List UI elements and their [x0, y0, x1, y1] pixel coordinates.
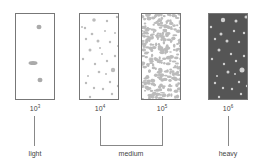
dense-particles-graphic	[142, 14, 181, 100]
label-10e3: 103	[30, 104, 40, 112]
panel-10e3	[15, 13, 55, 100]
connector-medium-left	[100, 116, 101, 146]
heavy-particles-graphic	[209, 14, 248, 100]
panel-10e5	[141, 13, 181, 100]
label-10e4: 104	[95, 104, 105, 112]
category-light: light	[29, 150, 42, 157]
scattered-particles-graphic	[80, 14, 119, 100]
label-10e6: 106	[223, 104, 233, 112]
label-10e5: 105	[157, 104, 167, 112]
panel-10e4	[79, 13, 119, 100]
connector-medium-right	[162, 116, 163, 146]
sparse-particles-graphic	[16, 14, 55, 100]
connector-medium-bar	[100, 145, 163, 146]
panel-10e6	[208, 13, 248, 100]
connector-light	[34, 116, 35, 146]
connector-heavy	[228, 116, 229, 146]
category-heavy: heavy	[219, 150, 238, 157]
category-medium: medium	[119, 150, 144, 157]
